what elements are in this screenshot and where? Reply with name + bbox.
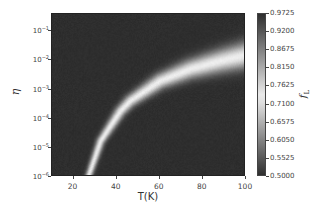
heatmap-plot-area: [51, 13, 245, 176]
y-tick-label: 10−6: [33, 171, 49, 181]
y-tick-label: 10−1: [33, 25, 49, 35]
x-tick-label: 80: [197, 182, 207, 191]
colorbar-tick-mark: [266, 140, 269, 141]
colorbar-tick-label: 0.8150: [270, 63, 295, 71]
colorbar-tick-label: 0.8675: [270, 45, 295, 53]
colorbar-tick-mark: [266, 13, 269, 14]
x-tick-mark: [159, 176, 160, 179]
y-tick-mark: [48, 176, 51, 177]
colorbar-tick-mark: [266, 176, 269, 177]
colorbar-tick-label: 0.6575: [270, 118, 295, 126]
colorbar: [257, 13, 266, 176]
colorbar-tick-mark: [266, 122, 269, 123]
y-tick-mark: [48, 59, 51, 60]
y-tick-label: 10−5: [33, 142, 49, 152]
colorbar-tick-mark: [266, 85, 269, 86]
colorbar-tick-mark: [266, 158, 269, 159]
colorbar-tick-mark: [266, 49, 269, 50]
colorbar-tick-label: 0.5525: [270, 154, 295, 162]
y-tick-mark: [48, 30, 51, 31]
colorbar-label: fL: [297, 90, 311, 98]
y-tick-mark: [48, 147, 51, 148]
y-tick-label: 10−4: [33, 113, 49, 123]
x-tick-label: 60: [154, 182, 164, 191]
x-tick-mark: [116, 176, 117, 179]
y-tick-mark: [48, 118, 51, 119]
y-tick-label: 10−3: [33, 83, 49, 93]
y-tick-mark: [48, 89, 51, 90]
heatmap-canvas: [52, 14, 244, 175]
y-axis-label: η: [9, 89, 22, 96]
x-tick-mark: [73, 176, 74, 179]
colorbar-tick-mark: [266, 104, 269, 105]
x-tick-mark: [245, 176, 246, 179]
colorbar-tick-label: 0.9200: [270, 27, 295, 35]
colorbar-tick-label: 0.7625: [270, 81, 295, 89]
colorbar-tick-label: 0.7100: [270, 100, 295, 108]
colorbar-tick-mark: [266, 31, 269, 32]
colorbar-label-sub: L: [303, 90, 311, 95]
x-tick-label: 40: [111, 182, 121, 191]
colorbar-label-main: f: [297, 94, 308, 98]
colorbar-tick-mark: [266, 67, 269, 68]
y-tick-label: 10−2: [33, 54, 49, 64]
colorbar-tick-label: 0.5000: [270, 172, 295, 180]
x-tick-mark: [202, 176, 203, 179]
x-axis-label: T(K): [138, 191, 158, 202]
x-tick-label: 100: [238, 182, 252, 191]
colorbar-tick-label: 0.6050: [270, 136, 295, 144]
colorbar-tick-label: 0.9725: [270, 9, 295, 17]
x-tick-label: 20: [68, 182, 78, 191]
